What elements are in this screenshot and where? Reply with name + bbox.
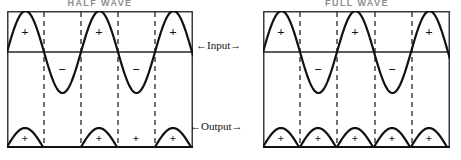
output-positive-sign: + bbox=[170, 132, 176, 144]
output-positive-sign: + bbox=[426, 132, 432, 144]
input-negative-sign: − bbox=[58, 62, 65, 77]
output-positive-sign: + bbox=[22, 132, 28, 144]
diagram-canvas: HALF WAVE FULL WAVE +++−−++++ +++−−+++++… bbox=[0, 0, 461, 160]
output-positive-sign: + bbox=[133, 132, 139, 144]
input-positive-sign: + bbox=[277, 24, 284, 39]
panel-plot: +++−−++++ bbox=[7, 11, 193, 148]
input-positive-sign: + bbox=[425, 24, 432, 39]
input-negative-sign: − bbox=[132, 62, 139, 77]
output-positive-sign: + bbox=[315, 132, 321, 144]
panel-half-wave: +++−−++++ bbox=[7, 11, 193, 148]
output-annotation-label: ←Output→ bbox=[190, 120, 243, 132]
input-positive-sign: + bbox=[169, 24, 176, 39]
input-positive-sign: + bbox=[351, 24, 358, 39]
output-positive-sign: + bbox=[96, 132, 102, 144]
output-positive-sign: + bbox=[389, 132, 395, 144]
panel-title-half-wave: HALF WAVE bbox=[24, 0, 176, 8]
output-positive-sign: + bbox=[278, 132, 284, 144]
input-positive-sign: + bbox=[21, 24, 28, 39]
panel-title-full-wave: FULL WAVE bbox=[281, 0, 433, 8]
panel-full-wave: +++−−+++++ bbox=[263, 11, 450, 148]
input-positive-sign: + bbox=[95, 24, 102, 39]
input-negative-sign: − bbox=[388, 62, 395, 77]
input-annotation-label: ←Input→ bbox=[196, 39, 241, 51]
input-negative-sign: − bbox=[314, 62, 321, 77]
output-positive-sign: + bbox=[352, 132, 358, 144]
panel-plot: +++−−+++++ bbox=[263, 11, 450, 148]
